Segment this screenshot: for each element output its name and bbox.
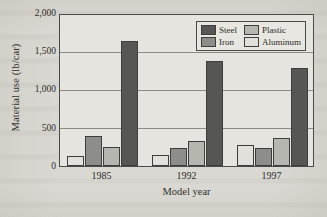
legend-item-iron: Iron: [201, 37, 237, 47]
bar-1992-steel: [206, 61, 223, 166]
legend: Steel Plastic Iron Aluminum: [196, 21, 306, 51]
bar-1985-plastic: [103, 147, 120, 166]
legend-label-plastic: Plastic: [262, 26, 286, 35]
bar-1997-plastic: [273, 138, 290, 166]
legend-label-steel: Steel: [219, 26, 237, 35]
x-tick-1992: 1992: [144, 170, 229, 181]
bar-1997-iron: [255, 148, 272, 166]
bar-1985-iron: [85, 136, 102, 166]
legend-item-aluminum: Aluminum: [244, 37, 301, 47]
bar-1992-aluminum: [152, 155, 169, 166]
legend-label-aluminum: Aluminum: [262, 38, 301, 47]
bar-1985-steel: [121, 41, 138, 166]
steel-swatch-icon: [201, 25, 216, 35]
bar-1997-aluminum: [237, 145, 254, 166]
plot-area: Steel Plastic Iron Aluminum: [59, 14, 314, 167]
bar-chart-figure: Material use (lb/car) 2,000 1,500 1,000 …: [0, 0, 327, 217]
x-tick-1985: 1985: [59, 170, 144, 181]
bar-1985-aluminum: [67, 156, 84, 166]
y-axis-tick-labels: 2,000 1,500 1,000 500 0: [20, 0, 56, 217]
x-axis-tick-labels: 1985 1992 1997: [59, 170, 314, 181]
bar-group-1985: [60, 15, 145, 166]
y-tick-0: 0: [22, 162, 56, 172]
x-tick-1997: 1997: [229, 170, 314, 181]
y-tick-500: 500: [22, 124, 56, 134]
legend-item-plastic: Plastic: [244, 25, 301, 35]
legend-item-steel: Steel: [201, 25, 237, 35]
legend-label-iron: Iron: [219, 38, 234, 47]
plastic-swatch-icon: [244, 25, 259, 35]
bar-1997-steel: [291, 68, 308, 166]
y-tick-2000: 2,000: [22, 9, 56, 19]
page-background: Material use (lb/car) 2,000 1,500 1,000 …: [0, 0, 327, 217]
iron-swatch-icon: [201, 37, 216, 47]
y-tick-1500: 1,500: [22, 47, 56, 57]
bar-1992-iron: [170, 148, 187, 166]
aluminum-swatch-icon: [244, 37, 259, 47]
y-tick-1000: 1,000: [22, 85, 56, 95]
bar-1992-plastic: [188, 141, 205, 166]
x-axis-title: Model year: [59, 186, 314, 197]
